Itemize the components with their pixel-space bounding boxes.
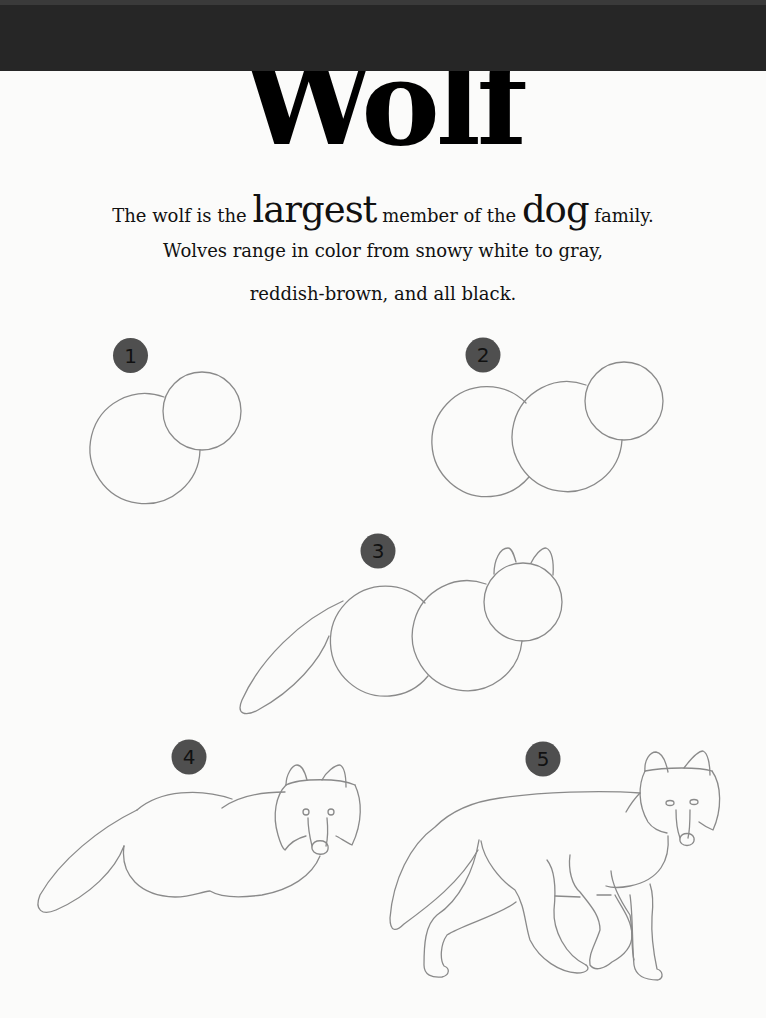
step-2-drawing bbox=[432, 362, 663, 497]
step-4-badge: 4 bbox=[172, 740, 207, 775]
step-3-drawing bbox=[240, 548, 562, 714]
step-3-badge: 3 bbox=[361, 534, 396, 569]
step-5-drawing bbox=[390, 751, 720, 980]
step-number: 4 bbox=[183, 745, 196, 769]
drawing-steps: 1 2 3 4 5 bbox=[0, 0, 766, 1018]
step-2-badge: 2 bbox=[466, 338, 501, 373]
step-4-drawing bbox=[38, 765, 360, 912]
step-number: 1 bbox=[124, 344, 137, 368]
step-1-badge: 1 bbox=[113, 338, 148, 373]
step-badges: 1 2 3 4 5 bbox=[113, 338, 561, 777]
step-number: 5 bbox=[537, 747, 550, 771]
step-number: 2 bbox=[477, 343, 490, 367]
step-5-badge: 5 bbox=[526, 742, 561, 777]
step-1-drawing bbox=[90, 372, 241, 504]
step-number: 3 bbox=[372, 539, 385, 563]
